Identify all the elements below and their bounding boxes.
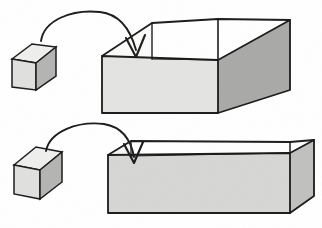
figure-canvas: Small cube placed into two open boxes of…	[0, 0, 322, 228]
paper-grain-overlay	[0, 0, 322, 228]
illustration-svg	[0, 0, 322, 228]
